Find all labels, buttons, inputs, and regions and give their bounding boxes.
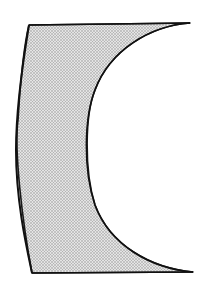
lens-diagram: [0, 0, 201, 285]
lens-bottom-edge: [32, 272, 193, 273]
lens-body: [17, 23, 193, 273]
